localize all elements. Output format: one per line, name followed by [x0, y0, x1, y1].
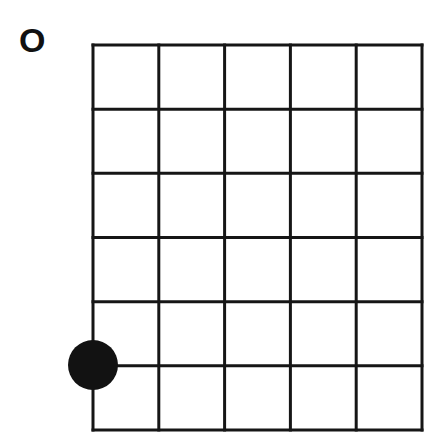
filled-circle-marker — [68, 340, 118, 390]
grid-horizontal-lines — [93, 45, 422, 430]
figure-canvas: O — [0, 0, 444, 437]
grid-svg — [0, 0, 444, 437]
grid-container — [0, 0, 444, 437]
